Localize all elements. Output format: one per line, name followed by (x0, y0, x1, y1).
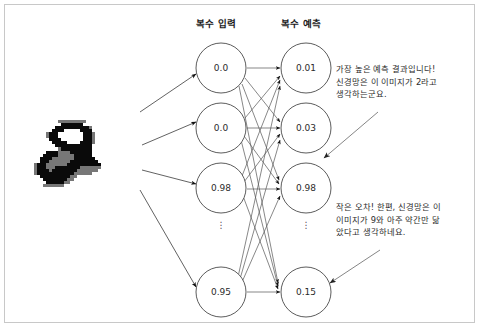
annotation-arrows (324, 112, 380, 283)
annotation-line: 가장 높은 예측 결과입니다! (336, 63, 454, 76)
output-node-3-value: 0.98 (286, 183, 326, 193)
input-node-1-value: 0.0 (201, 63, 241, 73)
input-nodes (196, 43, 246, 317)
annotation-line: 았다고 생각하네요. (336, 226, 454, 239)
column-header-inputs: 복수 입력 (196, 16, 236, 30)
image-to-input-arrows (140, 74, 196, 287)
input-node-4-value: 0.95 (201, 287, 241, 297)
input-node-2-value: 0.0 (201, 123, 241, 133)
output-nodes (281, 43, 331, 317)
diagram-page: 복수 입력 복수 예측 0.0 0.0 0.98 0.95 0.01 0.03 … (0, 0, 481, 329)
annotation-highest-prediction: 가장 높은 예측 결과입니다! 신경망은 이 이미지가 2라고 생각하는군요. (336, 63, 454, 101)
annotation-line: 이미지가 9와 아주 약간만 닮 (336, 214, 454, 227)
output-layer-ellipsis: ⋮ (299, 219, 313, 231)
annotation-line: 신경망은 이 이미지가 2라고 (336, 76, 454, 89)
handwritten-digit-2-image (31, 108, 116, 193)
output-node-1-value: 0.01 (286, 63, 326, 73)
annotation-line: 생각하는군요. (336, 88, 454, 101)
input-layer-ellipsis: ⋮ (214, 219, 228, 231)
input-node-3-value: 0.98 (201, 183, 241, 193)
annotation-small-error: 작은 오차! 한편, 신경망은 이 이미지가 9와 아주 약간만 닮 았다고 생… (336, 201, 454, 239)
annotation-line: 작은 오차! 한편, 신경망은 이 (336, 201, 454, 214)
output-node-4-value: 0.15 (286, 287, 326, 297)
column-header-outputs: 복수 예측 (281, 16, 321, 30)
output-node-2-value: 0.03 (286, 123, 326, 133)
